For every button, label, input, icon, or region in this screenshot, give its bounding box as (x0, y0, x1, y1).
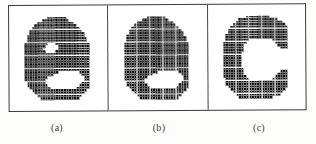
bitmap-cell (241, 49, 244, 52)
bitmap-cell (87, 87, 90, 90)
figure-container: (a) (b) (c) (0, 0, 316, 144)
bitmap-cell (45, 43, 48, 46)
bitmap-cell (246, 39, 249, 42)
bitmap-cell (56, 71, 59, 74)
bitmap-cell (82, 92, 85, 95)
panel-a (9, 5, 108, 111)
bitmap-cell (145, 76, 148, 79)
figure-frame (8, 3, 307, 112)
glyph-bitmap-a (24, 16, 92, 100)
caption-b: (b) (129, 122, 189, 133)
bitmap-cell (85, 89, 88, 92)
caption-c: (c) (229, 122, 289, 133)
bitmap-cell (280, 91, 283, 94)
bitmap-cell (184, 89, 187, 92)
bitmap-cell (278, 93, 281, 96)
caption-a: (a) (27, 122, 87, 133)
bitmap-cell (45, 76, 48, 79)
bitmap-cell (283, 88, 286, 91)
bitmap-cell (187, 86, 190, 89)
bitmap-cell (181, 91, 184, 94)
bitmap-cell (77, 97, 80, 100)
glyph-bitmap-b (124, 16, 192, 100)
bitmap-cell (285, 46, 288, 49)
bitmap-cell (244, 41, 247, 44)
bitmap-cell (176, 96, 179, 99)
bitmap-cell (179, 94, 182, 97)
glyph-bitmap-c (223, 15, 291, 99)
bitmap-cell (270, 96, 273, 99)
panel-b (108, 5, 208, 111)
panel-c (208, 4, 306, 110)
bitmap-cell (79, 94, 82, 97)
bitmap-cell (43, 45, 46, 48)
bitmap-cell (155, 71, 158, 74)
bitmap-cell (51, 74, 54, 77)
bitmap-cell (286, 85, 289, 88)
bitmap-cell (150, 73, 153, 76)
